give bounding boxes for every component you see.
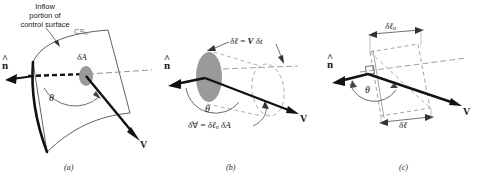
area-symbol: A [81,52,87,62]
cs-subscript: in [84,30,88,36]
length-equals-b: = [238,36,248,46]
velocity-vector-label-c: V [463,106,470,118]
angle-label-b: θ [205,103,210,115]
l-ell-c: ℓ [403,120,407,130]
angle-label-c: θ [365,84,370,96]
volume-formula-label-b: δ∀ = δℓn δA [188,120,231,132]
l-dimension-arrowhead-left [379,119,388,126]
velocity-vector-arrowhead-b [286,106,299,114]
callout-leader-arrowhead [54,40,60,47]
inflow-callout-label: Inflow portion of control surface [6,3,84,30]
length-formula-label-b: δℓ = V δt [230,36,262,47]
swept-volume-edge-bottom [207,104,262,116]
length-dimension-arrowhead-right [278,55,284,64]
ln-dimension-arrowhead-left [368,31,377,38]
panel-caption-c: (c) [399,163,408,172]
panel-a-graphics [5,28,152,152]
ln-dimension-arrowhead-right [415,27,424,34]
ln-dimension-label-c: δℓn [385,21,396,33]
cs-symbol: CS [74,27,84,36]
angle-arc-c [350,84,396,101]
reference-axis-dashed [88,70,152,74]
velocity-vector-label-a: V [140,139,147,151]
panel-b-graphics [168,42,299,126]
normal-vector-label-b: ^n [164,59,170,72]
velocity-vector-shaft [86,76,133,133]
normal-hat-accent-b: ^ [164,53,170,65]
ln-subscript-c: n [393,25,396,31]
cs-in-label: CSin [74,28,88,37]
area-element-label-a: δA [77,52,87,63]
panel-caption-a: (a) [64,163,73,172]
ln-dimension-line [372,30,420,34]
control-surface-patch [33,30,130,152]
volume-equals-b: = [198,120,208,130]
figure-container: Inflow portion of control surface CSin δ… [0,0,479,182]
swept-slab-parallelogram [370,44,430,116]
normal-hat-accent-a: ^ [2,53,8,65]
velocity-vector-label-b: V [300,113,307,125]
length-rhs-t-b: t [260,36,263,46]
swept-area-ellipse-dashed [249,62,288,118]
normal-vector-arrowhead [5,74,17,84]
normal-vector-label-c: ^n [327,58,333,71]
angle-label-a: θ [49,92,54,104]
slab-face-line [373,50,384,118]
panel-c-graphics [332,27,466,126]
panel-caption-b: (b) [226,163,235,172]
l-dimension-arrowhead-right [425,114,434,121]
normal-hat-accent-c: ^ [327,52,333,64]
volume-rhs-a-b: A [225,120,231,130]
normal-vector-arrowhead-c [332,76,345,86]
normal-vector-label-a: ^n [2,59,8,72]
l-dimension-label-c: δℓ [399,120,407,131]
normal-vector-arrowhead-b [168,79,181,89]
velocity-vector-arrowhead-c [449,98,462,106]
area-element-ellipse-b [196,52,222,102]
callout-line-3: control surface [6,21,84,30]
angle-arc-arrowhead-c-left [350,80,357,88]
length-dimension-arrowhead-left [207,45,216,51]
normal-direction-dashed [28,74,86,76]
